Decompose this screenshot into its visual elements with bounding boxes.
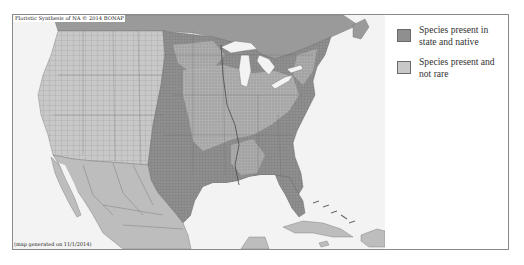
map-figure-frame: Floristic Synthesis of NA © 2014 BONAP (… bbox=[12, 14, 509, 250]
legend-swatch-present bbox=[397, 61, 411, 74]
legend-label-native: Species present in state and native bbox=[419, 24, 507, 48]
map-legend: Species present in state and native Spec… bbox=[397, 25, 507, 89]
north-america-map-graphic bbox=[13, 15, 385, 249]
newfoundland-region bbox=[353, 19, 369, 39]
legend-item-native: Species present in state and native bbox=[397, 25, 507, 57]
yucatan bbox=[241, 237, 269, 249]
map-credit-text: Floristic Synthesis of NA © 2014 BONAP bbox=[14, 15, 125, 22]
distribution-map: Floristic Synthesis of NA © 2014 BONAP (… bbox=[13, 15, 385, 249]
jamaica bbox=[319, 241, 329, 247]
legend-swatch-native bbox=[397, 29, 411, 42]
bahamas bbox=[313, 201, 355, 223]
legend-item-present: Species present and not rare bbox=[397, 57, 507, 89]
cuba bbox=[283, 221, 353, 237]
legend-label-present: Species present and not rare bbox=[419, 56, 507, 80]
hispaniola bbox=[361, 229, 385, 247]
us-west-present bbox=[38, 31, 165, 165]
map-generated-date: (map generated on 11/1/2014) bbox=[14, 241, 91, 248]
